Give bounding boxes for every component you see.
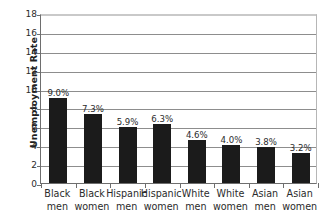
y-axis-tick-label: 16 bbox=[16, 28, 37, 37]
y-axis-tick-labels: 024681012141618 bbox=[16, 14, 37, 184]
plot-area: 9.0%7.3%5.9%6.3%4.6%4.0%3.8%3.2% bbox=[40, 14, 317, 184]
gridline bbox=[41, 34, 316, 35]
y-axis-tick-mark bbox=[37, 72, 41, 73]
y-axis-tick-label: 0 bbox=[16, 180, 37, 189]
y-axis-tick-mark bbox=[37, 53, 41, 54]
y-axis-tick-mark bbox=[37, 34, 41, 35]
y-axis-tick-label: 6 bbox=[16, 123, 37, 132]
y-axis-tick-mark bbox=[37, 166, 41, 167]
y-axis-tick-label: 4 bbox=[16, 142, 37, 151]
y-axis-tick-label: 10 bbox=[16, 85, 37, 94]
y-axis-tick-mark bbox=[37, 128, 41, 129]
bar bbox=[153, 124, 171, 184]
bar-value-label: 7.3% bbox=[73, 105, 113, 114]
y-axis-tick-label: 2 bbox=[16, 161, 37, 170]
y-axis-tick-label: 14 bbox=[16, 47, 37, 56]
x-axis-label-line: Asian bbox=[277, 188, 322, 201]
bar-value-label: 3.2% bbox=[281, 144, 321, 153]
x-axis-label-line: women bbox=[277, 201, 322, 214]
x-axis-category-label: Asianwomen bbox=[277, 188, 322, 213]
bar-chart: Unemployment Rate 024681012141618 9.0%7.… bbox=[0, 0, 327, 223]
y-axis-tick-mark bbox=[37, 147, 41, 148]
y-axis-tick-label: 12 bbox=[16, 66, 37, 75]
bar bbox=[222, 145, 240, 183]
bar bbox=[119, 127, 137, 183]
bar bbox=[257, 147, 275, 183]
gridline bbox=[41, 15, 316, 16]
gridline bbox=[41, 72, 316, 73]
bar bbox=[49, 98, 67, 183]
x-axis-tick-labels: BlackmenBlackwomenHispanicmenHispanicwom… bbox=[40, 188, 317, 220]
bar bbox=[292, 153, 310, 183]
bar bbox=[84, 114, 102, 183]
y-axis-tick-mark bbox=[37, 15, 41, 16]
bar-value-label: 9.0% bbox=[38, 89, 78, 98]
y-axis-tick-label: 18 bbox=[16, 10, 37, 19]
gridline bbox=[41, 53, 316, 54]
y-axis-tick-mark bbox=[37, 109, 41, 110]
gridline bbox=[41, 91, 316, 92]
gridline bbox=[41, 128, 316, 129]
bar bbox=[188, 140, 206, 183]
bar-value-label: 6.3% bbox=[142, 115, 182, 124]
y-axis-tick-label: 8 bbox=[16, 104, 37, 113]
